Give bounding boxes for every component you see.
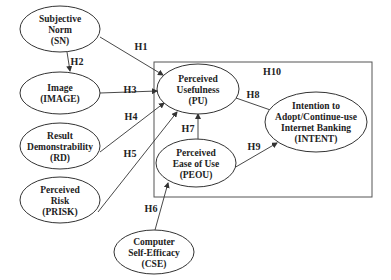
node-label-line: (PEOU) [180, 170, 213, 181]
node-peou: PerceivedEase of Use(PEOU) [156, 139, 236, 187]
node-pu: PerceivedUsefulness(PU) [157, 64, 239, 114]
node-intent: Intention toAdopt/Continue-useInternet B… [265, 92, 367, 152]
node-label-line: Computer [133, 237, 175, 247]
frame-label-h10: H10 [263, 66, 281, 77]
edge-label-h4: H4 [125, 111, 138, 122]
edge-label-h8: H8 [247, 89, 260, 100]
node-label-line: Intention to [292, 101, 340, 111]
node-label-line: (IMAGE) [40, 94, 80, 105]
node-ellipse [20, 72, 100, 114]
node-label-line: Risk [51, 196, 70, 206]
node-label-line: Self-Efficacy [128, 248, 180, 258]
node-label-line: Image [47, 83, 72, 93]
node-label-line: (PU) [189, 96, 208, 107]
node-label-line: (SN) [51, 36, 69, 47]
edge-label-h6: H6 [145, 203, 158, 214]
edge-label-h3: H3 [124, 84, 137, 95]
node-cse: ComputerSelf-Efficacy(CSE) [114, 230, 194, 274]
node-label-line: Demonstrability [27, 142, 93, 152]
edge-label-h1: H1 [135, 41, 148, 52]
node-label-line: Perceived [40, 185, 80, 195]
edge-label-h5: H5 [124, 148, 137, 159]
node-label-line: Subjective [39, 14, 81, 24]
edge-label-h7: H7 [182, 123, 195, 134]
node-label-line: Internet Banking [281, 123, 351, 133]
edge-sn-to-pu [100, 37, 163, 75]
node-image: Image(IMAGE) [20, 72, 100, 114]
edge-label-h2: H2 [71, 56, 84, 67]
node-label-line: Result [47, 131, 74, 141]
node-label-line: Adopt/Continue-use [275, 112, 357, 122]
node-label-line: (RD) [50, 153, 70, 164]
node-label-line: (INTENT) [295, 134, 338, 145]
node-prisk: PerceivedRisk(PRISK) [20, 177, 100, 223]
node-label-line: (PRISK) [42, 207, 77, 218]
node-label-line: (CSE) [142, 259, 167, 270]
research-model-diagram: H10 H1H2H3H4H5H6H7H8H9 SubjectiveNorm(SN… [0, 0, 391, 280]
nodes-layer: SubjectiveNorm(SN)Image(IMAGE)ResultDemo… [20, 6, 367, 274]
node-rd: ResultDemonstrability(RD) [20, 123, 100, 169]
node-label-line: Perceived [176, 148, 216, 158]
node-label-line: Usefulness [177, 85, 220, 95]
edge-sn-to-image [67, 52, 70, 71]
node-label-line: Norm [48, 25, 72, 35]
node-sn: SubjectiveNorm(SN) [20, 6, 100, 52]
node-label-line: Perceived [178, 74, 218, 84]
edge-label-h9: H9 [248, 141, 261, 152]
node-label-line: Ease of Use [173, 159, 219, 169]
